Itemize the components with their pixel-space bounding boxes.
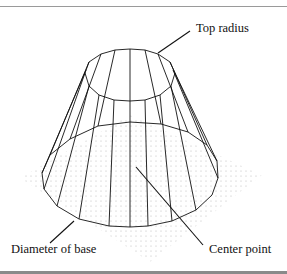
- leader-top-radius: [158, 31, 190, 53]
- ground-plane: [20, 115, 262, 262]
- label-top-radius: Top radius: [196, 22, 249, 35]
- label-center-point: Center point: [209, 243, 271, 256]
- leader-diameter-of-base: [50, 221, 74, 243]
- frustum-diagram: [0, 0, 287, 274]
- label-diameter-of-base: Diameter of base: [11, 243, 96, 256]
